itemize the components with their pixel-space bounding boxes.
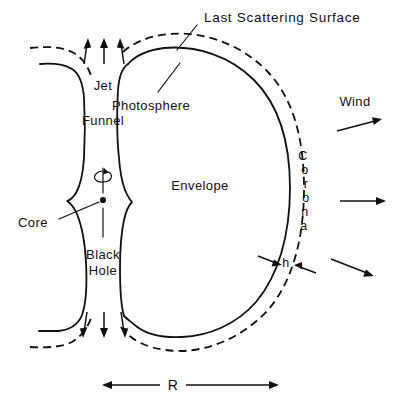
wind-arrow-upper-head	[372, 117, 382, 125]
core-leader-line	[59, 202, 99, 219]
corona-letter-3: o	[302, 191, 309, 205]
jet-arrow-bottom-right-head	[121, 327, 129, 338]
label-h-gap: h	[282, 256, 289, 270]
last-scattering-surface-left-upper	[30, 47, 91, 76]
photosphere-leader-line	[158, 63, 180, 92]
radius-arrow-right-head	[269, 381, 279, 389]
label-black-hole-line2: Hole	[89, 263, 117, 278]
wind-arrow-lower-head	[363, 269, 374, 276]
jet-arrow-top-left-head	[84, 38, 92, 49]
label-last-scattering-surface: Last Scattering Surface	[204, 10, 360, 25]
jet-arrows-top	[84, 38, 125, 64]
core-dot	[100, 197, 106, 203]
corona-letter-5: a	[300, 219, 307, 233]
funnel-right-wall-lower-solid	[120, 190, 132, 316]
jet-arrow-bottom-left-head	[80, 327, 88, 338]
corona-letter-0: C	[298, 149, 307, 163]
label-funnel: Funnel	[82, 113, 124, 128]
radius-dimension	[102, 381, 279, 389]
black-hole-envelope-diagram: Last Scattering Surface Photosphere Enve…	[0, 0, 408, 413]
last-scattering-surface-leader-line	[177, 25, 197, 50]
wind-arrows	[331, 117, 386, 277]
label-radius: R	[168, 377, 179, 393]
wind-arrow-lower-line	[331, 259, 367, 273]
h-arrow-left-head	[272, 260, 283, 267]
radius-arrow-left-head	[102, 381, 112, 389]
corona-letter-2: r	[304, 177, 309, 191]
spin-rotation-arrow-head	[103, 168, 109, 175]
wind-arrow-upper-line	[337, 121, 375, 131]
h-arrow-right-line	[300, 267, 316, 273]
jet-arrow-top-center-head	[100, 38, 108, 48]
funnel-left-wall-upper-solid	[40, 64, 85, 193]
label-photosphere: Photosphere	[112, 98, 190, 113]
label-wind: Wind	[339, 94, 370, 109]
label-black-hole-line1: Black	[86, 247, 120, 262]
jet-arrow-top-right-head	[117, 38, 125, 49]
corona-letter-4: n	[301, 205, 308, 219]
wind-arrow-middle-head	[376, 197, 386, 205]
jet-arrow-bottom-center-head	[100, 328, 108, 338]
h-arrow-right-head	[294, 262, 303, 270]
label-corona: C o r o n a	[298, 149, 309, 233]
label-jet: Jet	[94, 78, 113, 93]
figure-canvas: Last Scattering Surface Photosphere Enve…	[0, 0, 408, 413]
label-core: Core	[18, 215, 48, 230]
label-envelope: Envelope	[171, 178, 228, 193]
corona-letter-1: o	[301, 163, 308, 177]
funnel-left-wall-lower-solid	[39, 193, 86, 331]
